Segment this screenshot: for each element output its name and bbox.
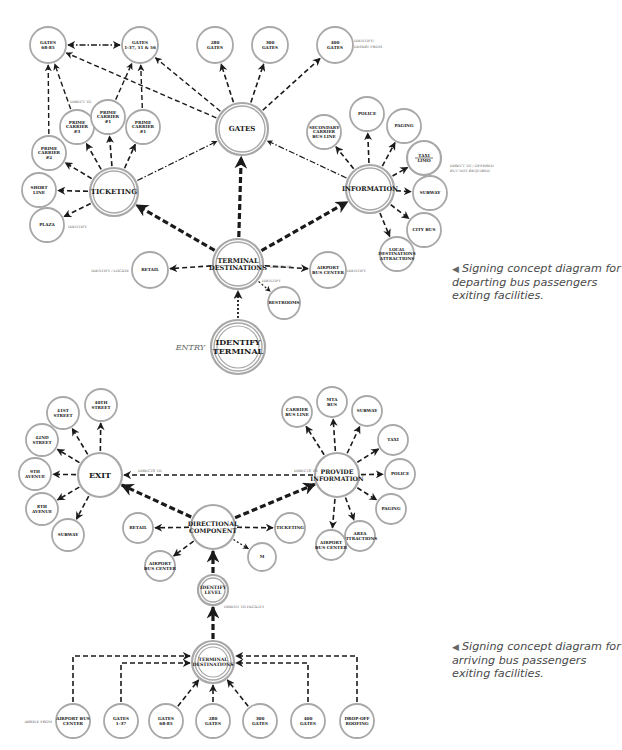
arrow-provide-to-pagingA	[357, 488, 376, 500]
node-label: STREET	[91, 405, 111, 410]
arrow-termdest-to-retail	[170, 266, 211, 269]
node-pc1b: PRIMECARRIER#1	[126, 110, 160, 144]
node-label: #1	[105, 119, 112, 124]
node-gates: GATES	[216, 103, 268, 155]
arrow-exit-to-st42	[57, 449, 79, 462]
arrow-exit-to-av8	[58, 487, 80, 500]
node-label: COMPONENT	[189, 527, 237, 534]
annotation-note: ORIENT TO FACILITY	[224, 605, 265, 609]
node-label: PAGING	[381, 506, 400, 511]
node-termdestA: TERMINALDESTINATIONS	[192, 641, 234, 683]
arrow-provide-to-areaA	[345, 497, 354, 520]
node-termdest: TERMINALDESTINATIONS	[209, 239, 267, 289]
node-label: LINE	[33, 190, 45, 195]
node-label: GATES	[300, 721, 316, 726]
node-label: AVENUE	[31, 509, 52, 514]
node-dircomp: DIRECTIONALCOMPONENT	[188, 505, 239, 549]
node-label: DIRECTIONAL	[188, 520, 239, 527]
arrow-ticketing-to-pc2	[65, 163, 91, 179]
node-label: EXIT	[89, 470, 111, 480]
node-gates6885: GATES68-85	[30, 27, 66, 63]
node-airportA: AIRPORTBUS CENTER	[144, 551, 176, 581]
arriving-diagram: 41STSTREET40THSTREET42NDSTREET9THAVENUE8…	[19, 387, 415, 738]
node-label: STREET	[32, 440, 52, 445]
node-label: LIMO	[417, 158, 431, 163]
node-label: ATTRACTIONS	[342, 536, 378, 541]
caption-pointer-icon: ◀	[452, 264, 459, 274]
annotation-note: DIRECT TO	[70, 100, 91, 104]
node-label: CENTER	[63, 721, 84, 726]
node-label: DESTINATIONS	[193, 662, 235, 667]
node-label: GATES	[252, 721, 268, 726]
arrow-provide-to-mtaA	[333, 419, 335, 451]
node-taxi: TAXILIMO	[407, 141, 441, 175]
arrow-ticketing-to-shortline	[58, 191, 88, 192]
arrow-information-to-subway	[396, 191, 411, 192]
arrow-pc3-to-gates6885	[55, 64, 71, 109]
node-pc2: PRIMECARRIER#2	[32, 136, 66, 170]
arrow-exit-to-st41	[72, 428, 87, 454]
node-police: POLICE	[350, 97, 384, 131]
node-label: GATES	[205, 721, 221, 726]
node-airportbus: AIRPORTBUS CENTER	[310, 252, 346, 288]
node-label: BUS	[327, 402, 337, 407]
node-a_400: 400GATES	[291, 704, 325, 738]
arrow-elbow-a_400	[236, 663, 308, 702]
node-information: INFORMATION	[342, 165, 398, 213]
node-subway: SUBWAY	[413, 176, 447, 210]
caption-pointer-icon: ◀	[452, 642, 459, 652]
node-label: BUS CENTER	[312, 270, 344, 275]
node-label: PAGING	[394, 123, 413, 128]
node-restrooms: RESTROOMS	[268, 287, 300, 319]
node-shortline: SHORTLINE	[22, 173, 56, 207]
caption-departing: ◀Signing concept diagram for departing b…	[452, 262, 622, 302]
node-label: TICKETING	[91, 187, 137, 196]
annotation-note: DEPART FROM	[354, 45, 383, 49]
arrow-ticketing-to-pc1a	[110, 136, 112, 166]
arrow-pc1b-to-gates137	[141, 65, 143, 108]
node-label: CITY BUS	[412, 227, 435, 232]
arrow-pc2-to-gates6885	[48, 65, 49, 134]
arrow-ticketing-to-plaza	[64, 203, 91, 216]
node-pc3: PRIMECARRIER#3	[60, 110, 94, 144]
node-label: DESTINATIONS	[209, 264, 267, 272]
node-label: TERMINAL	[213, 346, 264, 356]
node-label: BUS CENTER	[315, 545, 347, 550]
arrow-information-to-gates	[267, 141, 346, 178]
node-label: TAXI	[387, 437, 398, 442]
node-label: BUS LINE	[285, 412, 309, 417]
arrow-information-to-secondary	[336, 147, 354, 169]
annotation-note: IDENTIFY/	[354, 39, 375, 43]
caption-arriving: ◀Signing concept diagram for arriving bu…	[452, 640, 622, 680]
arrow-ticketing-to-pc3	[86, 144, 101, 170]
node-g400: 400GATES	[317, 27, 353, 63]
annotation-note: ARRIVE FROM	[23, 720, 52, 724]
node-mA: M	[248, 543, 276, 571]
node-label: GATES	[327, 45, 343, 50]
node-a_g6885: GATES68-85	[149, 704, 183, 738]
node-ticketing: TICKETING	[90, 168, 138, 216]
node-label: INFORMATION	[310, 475, 364, 482]
node-a_300: 300GATES	[243, 704, 277, 738]
node-a_airport: AIRPORT BUSCENTER	[55, 704, 90, 738]
arrow-a_300-to-termdestA	[227, 680, 248, 706]
arrow-ticketing-to-pc1b	[125, 144, 136, 168]
node-label: ROOFING	[345, 721, 369, 726]
node-label: RESTROOMS	[268, 300, 299, 305]
node-policeA: POLICE	[385, 459, 415, 489]
arrow-gates-to-g280	[221, 64, 233, 102]
node-label: ATTRACTIONS	[379, 256, 415, 261]
arrow-information-to-local	[380, 213, 390, 236]
node-label: STREET	[53, 413, 73, 418]
caption-text: Signing concept diagram for departing bu…	[452, 262, 621, 302]
arrow-a_g6885-to-termdestA	[178, 680, 199, 706]
arrow-exit-to-subwayA	[76, 496, 88, 519]
node-provide: PROVIDEINFORMATION	[310, 453, 364, 497]
departing-diagram: GATES68-85GATES1-37, 51 & 56280GATES300G…	[22, 27, 494, 374]
annotation-note: DIRECTS TO	[294, 469, 318, 473]
node-g300: 300GATES	[252, 27, 288, 63]
node-label: #2	[46, 155, 53, 160]
node-taxiA: TAXI	[378, 425, 408, 455]
node-label: 1-37	[116, 721, 127, 726]
arrow-information-to-citybus	[391, 205, 409, 219]
